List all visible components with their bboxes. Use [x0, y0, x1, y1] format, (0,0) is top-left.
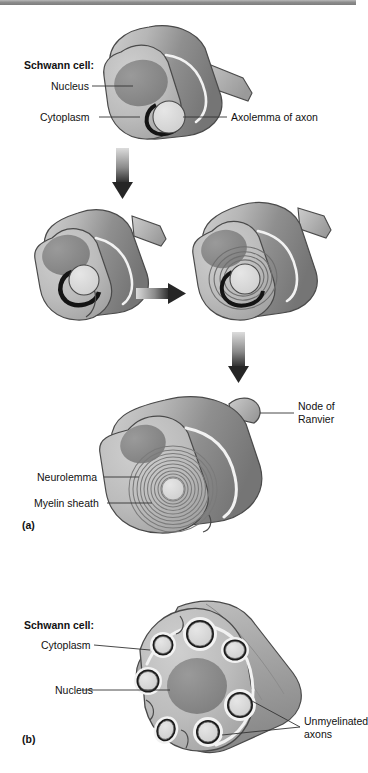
label-node-of-ranvier-line1: Node of	[298, 400, 335, 413]
axon-2	[69, 265, 99, 295]
label-nucleus-a: Nucleus	[51, 80, 89, 93]
label-nucleus-b: Nucleus	[55, 684, 93, 697]
unmyelinated-axon	[183, 617, 217, 651]
axon-3	[230, 264, 260, 294]
nucleus-b	[167, 658, 227, 714]
axon	[153, 101, 185, 133]
label-unmyelinated-line2: axons	[304, 728, 332, 741]
label-axolemma-of-axon: Axolemma of axon	[231, 111, 318, 124]
unmyelinated-axon	[221, 637, 249, 663]
stage-4-myelinated	[100, 397, 262, 533]
panel-a-schwann-cell-heading: Schwann cell:	[24, 59, 94, 72]
stage-2-wrapping-begin	[35, 210, 166, 320]
label-cytoplasm-a: Cytoplasm	[40, 111, 90, 124]
label-myelin-sheath: Myelin sheath	[34, 497, 99, 510]
label-cytoplasm-b: Cytoplasm	[41, 639, 91, 652]
arrow-down-2	[228, 332, 249, 383]
panel-b-label: (b)	[22, 733, 35, 745]
arrow-down-1	[112, 148, 133, 199]
panel-a-label: (a)	[22, 519, 35, 531]
axon-4	[162, 478, 184, 500]
unmyelinated-axon	[193, 717, 223, 747]
axon-stub-2	[132, 216, 166, 246]
panel-b-schwann-cell-heading: Schwann cell:	[24, 619, 94, 632]
label-neurolemma: Neurolemma	[37, 471, 97, 484]
label-node-of-ranvier-line2: Ranvier	[298, 413, 334, 426]
unmyelinated-axon	[150, 632, 176, 658]
unmyelinated-axon	[224, 689, 256, 721]
label-unmyelinated-line1: Unmyelinated	[304, 715, 368, 728]
stage-1-engulfing	[104, 26, 252, 139]
unmyelinated-axon	[134, 667, 162, 695]
stage-3-wrapping-spiral	[193, 202, 331, 320]
